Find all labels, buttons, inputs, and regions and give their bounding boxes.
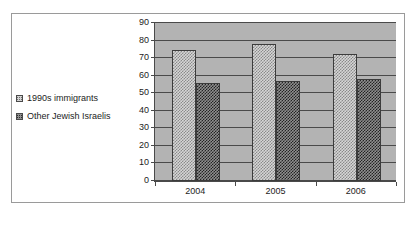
bar-group — [317, 23, 397, 181]
y-axis-tick — [151, 92, 155, 93]
y-axis-tick — [151, 145, 155, 146]
legend-label-1990s-immigrants: 1990s immigrants — [27, 93, 98, 103]
y-axis-tick — [151, 127, 155, 128]
y-axis-tick — [151, 75, 155, 76]
legend-swatch-1990s-immigrants — [16, 95, 23, 102]
y-axis-tick-label: 90 — [139, 18, 149, 27]
legend-swatch-other-jewish-israelis — [16, 113, 23, 120]
y-axis-tick — [151, 110, 155, 111]
x-axis-tick-label: 2004 — [155, 186, 235, 196]
y-axis-tick — [151, 22, 155, 23]
plot-wrapper: 9080706050403020100 200420052006 — [140, 23, 396, 195]
legend-item: 1990s immigrants — [16, 90, 124, 106]
y-axis-tick-label: 80 — [139, 36, 149, 45]
y-axis-tick-label: 30 — [139, 123, 149, 132]
y-axis-tick-label: 40 — [139, 106, 149, 115]
legend-label-other-jewish-israelis: Other Jewish Israelis — [27, 111, 111, 121]
y-axis-tick-label: 50 — [139, 88, 149, 97]
x-axis: 200420052006 — [155, 182, 396, 195]
x-axis-tick-label: 2006 — [316, 186, 396, 196]
y-axis-tick-label: 0 — [144, 176, 149, 185]
y-axis-tick — [151, 180, 155, 181]
y-axis-tick — [151, 40, 155, 41]
chart-legend: 1990s immigrants Other Jewish Israelis — [16, 90, 124, 126]
legend-item: Other Jewish Israelis — [16, 108, 124, 124]
bar — [252, 44, 276, 181]
y-axis-tick-label: 10 — [139, 158, 149, 167]
bar-group — [236, 23, 316, 181]
bar — [333, 54, 357, 181]
y-axis-tick-label: 70 — [139, 53, 149, 62]
bar-group — [156, 23, 236, 181]
y-axis-tick — [151, 57, 155, 58]
bar-series-container — [156, 23, 396, 181]
y-axis-tick-label: 60 — [139, 71, 149, 80]
y-axis-tick-label: 20 — [139, 141, 149, 150]
x-axis-tick-label: 2005 — [235, 186, 315, 196]
bar — [196, 83, 220, 181]
plot-area: 9080706050403020100 — [154, 23, 396, 182]
y-axis-tick — [151, 162, 155, 163]
bar — [172, 50, 196, 181]
bar — [357, 79, 381, 181]
chart-frame: 1990s immigrants Other Jewish Israelis 9… — [11, 13, 405, 203]
x-axis-tick — [396, 182, 397, 186]
bar — [276, 81, 300, 181]
